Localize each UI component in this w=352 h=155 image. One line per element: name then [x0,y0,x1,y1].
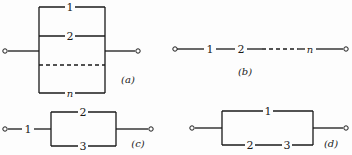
reliability-block-diagrams: 1 2 n (a) 1 2 n (b) [0,0,352,155]
diagram-c-series-parallel: 1 2 3 (c) [3,106,153,153]
output-terminal-b [344,47,348,51]
diagram-a-parallel: 1 2 n (a) [3,1,140,99]
component-d-1: 1 [265,105,272,118]
component-b-1: 1 [207,43,214,56]
input-terminal-c [3,127,7,131]
output-terminal-d [344,126,348,130]
diagram-d-parallel-series: 1 2 3 (d) [190,105,348,152]
component-c-1: 1 [25,123,32,136]
input-terminal-a [3,49,7,53]
caption-d: (d) [324,138,338,149]
caption-a: (a) [121,74,135,85]
caption-c: (c) [131,138,145,149]
input-terminal-b [173,47,177,51]
input-terminal-d [190,126,194,130]
component-b-n: n [307,44,313,55]
component-c-2: 2 [80,106,87,119]
component-d-3: 3 [284,139,291,152]
caption-b: (b) [238,66,252,77]
component-d-2: 2 [247,139,254,152]
component-c-3: 3 [80,140,87,153]
component-b-2: 2 [238,43,245,56]
component-a-n: n [67,88,73,99]
output-terminal-a [136,49,140,53]
component-a-2: 2 [67,30,74,43]
output-terminal-c [149,127,153,131]
component-a-1: 1 [67,1,74,14]
diagram-b-series: 1 2 n (b) [173,43,348,77]
